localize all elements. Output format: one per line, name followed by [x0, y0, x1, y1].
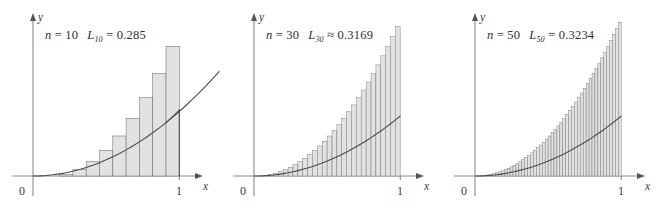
- riemann-rect: [583, 88, 586, 176]
- riemann-rect: [376, 65, 381, 176]
- x-tick-label-0: 0: [19, 184, 25, 198]
- annotation-n50: n = 50L50 = 0.3234: [487, 28, 594, 43]
- riemann-rect: [528, 155, 531, 176]
- riemann-rect: [554, 129, 557, 176]
- annotation-n-value: 30: [286, 28, 299, 42]
- riemann-rect: [60, 174, 73, 176]
- riemann-rect: [531, 153, 534, 176]
- riemann-rect: [592, 74, 595, 176]
- x-tick-label-1: 1: [618, 184, 624, 198]
- riemann-rect: [356, 98, 361, 176]
- riemann-rect: [395, 26, 400, 176]
- annotation-n-value: 10: [65, 28, 78, 42]
- x-tick-label-0: 0: [240, 184, 246, 198]
- annotation-n-equals: =: [55, 28, 66, 42]
- chart-panel-n50: y x 0 1 n = 50L50 = 0.3234: [442, 0, 662, 210]
- riemann-rect: [303, 158, 308, 176]
- riemann-rect: [539, 145, 542, 176]
- riemann-rect: [560, 122, 563, 176]
- riemann-rect: [613, 35, 616, 176]
- riemann-rect: [386, 46, 391, 176]
- annotation-n-equals: =: [276, 28, 287, 42]
- riemann-rect: [586, 84, 589, 176]
- annotation-relation: ≈: [327, 28, 334, 42]
- riemann-rect: [313, 150, 318, 176]
- rectangles-group-n10: [60, 46, 180, 176]
- riemann-rect: [525, 158, 528, 177]
- riemann-rect: [536, 148, 539, 176]
- x-tick-label-1: 1: [176, 184, 182, 198]
- x-axis-arrow-icon: [416, 173, 424, 179]
- riemann-rect: [519, 162, 522, 176]
- riemann-rect: [595, 68, 598, 176]
- x-tick-label-0: 0: [461, 184, 467, 198]
- riemann-rect: [317, 146, 322, 176]
- annotation-relation: =: [106, 28, 113, 42]
- y-axis-label: y: [37, 11, 44, 24]
- x-axis-label: x: [423, 180, 430, 192]
- annotation-n-value: 50: [507, 28, 520, 42]
- riemann-rect: [572, 106, 575, 176]
- riemann-rect: [332, 130, 337, 176]
- riemann-rect: [574, 102, 577, 176]
- x-axis-arrow-icon: [195, 173, 203, 179]
- riemann-rect: [298, 162, 303, 176]
- riemann-rect: [542, 142, 545, 176]
- riemann-rect: [510, 167, 513, 176]
- riemann-rect: [610, 41, 613, 176]
- y-axis-arrow-icon: [251, 13, 257, 21]
- chart-panel-n30: y x 0 1 n = 30L30 ≈ 0.3169: [221, 0, 442, 210]
- riemann-rect: [598, 63, 601, 176]
- annotation-sum-symbol: L10: [87, 28, 103, 42]
- y-axis-arrow-icon: [472, 13, 478, 21]
- riemann-rect: [563, 118, 566, 176]
- riemann-rect: [607, 46, 610, 176]
- riemann-rect: [361, 90, 366, 176]
- riemann-rect: [371, 74, 376, 176]
- annotation-n-equals: =: [497, 28, 508, 42]
- riemann-rect: [513, 165, 516, 176]
- riemann-rect: [577, 98, 580, 176]
- riemann-rect: [604, 52, 607, 176]
- riemann-rect: [522, 160, 525, 176]
- riemann-rect: [126, 118, 139, 176]
- rectangles-group-n30: [259, 26, 400, 176]
- annotation-sum-subscript: 30: [315, 35, 323, 44]
- riemann-rect: [548, 136, 551, 176]
- riemann-rect: [601, 58, 604, 176]
- riemann-rect: [545, 139, 548, 176]
- riemann-rect: [615, 29, 618, 176]
- riemann-rect: [534, 150, 537, 176]
- riemann-rect: [100, 150, 113, 176]
- x-tick-label-1: 1: [397, 184, 403, 198]
- riemann-rect: [551, 133, 554, 176]
- x-axis-label: x: [644, 180, 651, 192]
- annotation-relation: =: [548, 28, 555, 42]
- annotation-n-symbol: n: [45, 28, 51, 42]
- annotation-sum-value: 0.3234: [559, 28, 595, 42]
- annotation-sum-symbol: L30: [308, 28, 324, 42]
- riemann-rect: [589, 79, 592, 176]
- riemann-rect: [366, 82, 371, 176]
- riemann-rect: [618, 22, 621, 176]
- riemann-rect: [516, 163, 519, 176]
- riemann-rect: [308, 154, 313, 176]
- y-axis-label: y: [479, 11, 486, 24]
- annotation-n-symbol: n: [487, 28, 493, 42]
- annotation-sum-value: 0.285: [117, 28, 146, 42]
- annotation-n30: n = 30L30 ≈ 0.3169: [266, 28, 373, 43]
- y-axis-label: y: [258, 11, 265, 24]
- riemann-rect: [569, 110, 572, 176]
- riemann-rect: [342, 118, 347, 176]
- annotation-sum-symbol: L50: [529, 28, 545, 42]
- riemann-rect: [557, 126, 560, 176]
- x-axis-arrow-icon: [637, 173, 645, 179]
- annotation-n10: n = 10L10 = 0.285: [45, 28, 146, 43]
- riemann-rect: [347, 112, 352, 176]
- y-axis-arrow-icon: [30, 13, 36, 21]
- x-axis-label: x: [202, 180, 209, 192]
- riemann-rect: [322, 141, 327, 176]
- chart-panel-n10: y x 0 1 n = 10L10 = 0.285: [0, 0, 221, 210]
- annotation-n-symbol: n: [266, 28, 272, 42]
- rectangles-group-n50: [478, 22, 621, 176]
